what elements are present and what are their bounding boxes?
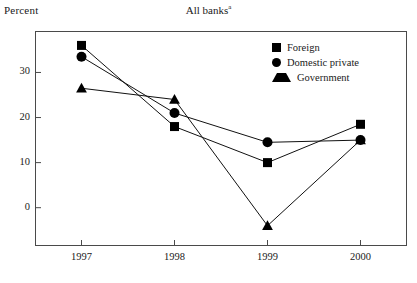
x-axis-tick-label: 1998 — [150, 251, 200, 262]
square-marker-icon — [263, 158, 272, 167]
x-axis-tick-label: 1999 — [243, 251, 293, 262]
triangle-marker-icon — [272, 73, 291, 82]
circle-marker-icon — [170, 108, 180, 118]
legend-item: Domestic private — [272, 55, 359, 70]
legend-item-label: Foreign — [287, 40, 320, 55]
chart-legend: Foreign Domestic private Government — [272, 40, 359, 85]
x-axis-tick-label: 2000 — [336, 251, 386, 262]
circle-marker-icon — [272, 58, 281, 67]
y-axis-tick-label: 30 — [4, 65, 30, 76]
circle-marker-icon — [263, 137, 273, 147]
square-marker-icon — [77, 41, 86, 50]
y-axis-tick-label: 0 — [4, 201, 30, 212]
x-axis-tick-label: 1997 — [57, 251, 107, 262]
triangle-marker-icon — [76, 83, 87, 93]
chart-title: All banksa — [0, 3, 417, 16]
legend-item: Government — [272, 70, 359, 85]
chart-figure: Percent All banksa 0102030 1997199819992… — [0, 0, 417, 283]
chart-title-footnote-marker: a — [228, 3, 231, 11]
circle-marker-icon — [77, 52, 87, 62]
y-axis-tick-label: 20 — [4, 111, 30, 122]
axis-ticks — [35, 72, 361, 246]
y-axis-tick-label: 10 — [4, 156, 30, 167]
chart-title-text: All banks — [186, 4, 228, 16]
legend-item: Foreign — [272, 40, 359, 55]
legend-item-label: Domestic private — [287, 55, 359, 70]
square-marker-icon — [356, 120, 365, 129]
square-marker-icon — [272, 43, 281, 52]
series-line — [82, 88, 361, 225]
square-marker-icon — [170, 122, 179, 131]
legend-item-label: Government — [297, 70, 350, 85]
